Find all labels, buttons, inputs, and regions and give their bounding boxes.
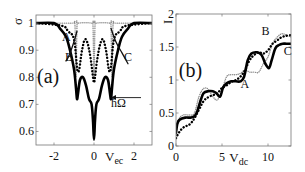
panel-b-series bbox=[176, 34, 291, 138]
y-tick-label: 1 bbox=[28, 16, 34, 30]
x-tick-label: -2 bbox=[49, 149, 59, 163]
y-tick-label: 0.5 bbox=[159, 106, 174, 120]
panel-a: -2020.60.70.80.91 (a)ABCħΩ σ Vec bbox=[10, 15, 152, 166]
curve-label: C bbox=[124, 50, 132, 64]
y-tick-label: 2 bbox=[168, 7, 174, 21]
curve-label: B bbox=[262, 24, 270, 38]
figure: -2020.60.70.80.91 (a)ABCħΩ σ Vec 051000.… bbox=[0, 0, 305, 172]
panel-label: (b) bbox=[179, 59, 202, 82]
x-tick-label: 10 bbox=[262, 150, 274, 164]
y-tick-label: 0.9 bbox=[19, 43, 34, 57]
panel-label: (a) bbox=[37, 65, 59, 88]
y-tick-label: 0.8 bbox=[19, 70, 34, 84]
panel-b-xlabel: Vdc bbox=[229, 150, 248, 167]
curve-label: A bbox=[240, 77, 249, 91]
x-tick-label: 5 bbox=[219, 150, 225, 164]
curve-label: B bbox=[65, 50, 73, 64]
panel-b-ylabel: I bbox=[160, 20, 175, 24]
panel-a-xlabel: Vec bbox=[105, 149, 124, 166]
x-tick-label: 2 bbox=[131, 149, 137, 163]
x-tick-label: 0 bbox=[91, 149, 97, 163]
y-tick-label: 1 bbox=[168, 73, 174, 87]
curve-label: A bbox=[62, 30, 71, 44]
panel-a-ylabel: σ bbox=[10, 18, 25, 25]
y-tick-label: 1.5 bbox=[159, 40, 174, 54]
y-tick-label: 0.6 bbox=[19, 124, 34, 138]
panel-a-ticks: -2020.60.70.80.91 bbox=[19, 15, 152, 163]
y-tick-label: 0.7 bbox=[19, 97, 34, 111]
curve-label: C bbox=[284, 44, 292, 58]
y-tick-label: 0 bbox=[168, 139, 174, 153]
panel-b: 051000.511.52 (b)ABC I Vdc bbox=[159, 7, 292, 167]
